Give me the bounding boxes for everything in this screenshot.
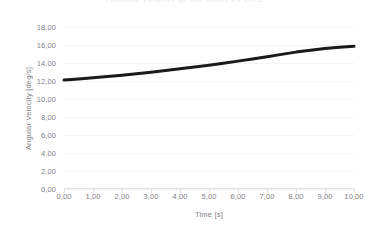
y-tick-label: 6,00	[41, 131, 56, 140]
y-tick-label: 2,00	[41, 167, 56, 176]
plot-area	[64, 27, 354, 189]
x-tick-label: 3,00	[144, 192, 159, 201]
y-tick-label: 18,00	[37, 23, 56, 32]
x-axis-tick-labels: 0,001,002,003,004,005,006,007,008,009,00…	[64, 192, 354, 206]
chart-title-clipped: Angular Velocity of the Shaft vs Time	[0, 0, 370, 2]
y-tick-label: 0,00	[41, 185, 56, 194]
y-tick-label: 10,00	[37, 95, 56, 104]
series-line-angular-velocity	[64, 46, 354, 80]
angular-velocity-chart: Angular Velocity of the Shaft vs Time 0,…	[0, 0, 370, 251]
x-tick-label: 9,00	[318, 192, 333, 201]
x-tick-label: 4,00	[173, 192, 188, 201]
series-line-layer	[64, 27, 354, 189]
x-tick-label: 8,00	[289, 192, 304, 201]
y-tick-label: 8,00	[41, 113, 56, 122]
x-tick-label: 0,00	[57, 192, 72, 201]
x-tick-label: 5,00	[202, 192, 217, 201]
y-axis-title-text: Angular Velocity [deg/s]	[25, 66, 34, 149]
x-tick-label: 10,00	[344, 192, 363, 201]
y-tick-label: 14,00	[37, 59, 56, 68]
x-tick-label: 7,00	[260, 192, 275, 201]
x-tick-label: 2,00	[115, 192, 130, 201]
x-tick-label: 1,00	[86, 192, 101, 201]
x-axis-title: Time [s]	[64, 210, 354, 219]
x-tick-label: 6,00	[231, 192, 246, 201]
y-tick-label: 12,00	[37, 77, 56, 86]
y-tick-label: 16,00	[37, 41, 56, 50]
y-tick-label: 4,00	[41, 149, 56, 158]
y-axis-title: Angular Velocity [deg/s]	[22, 27, 36, 189]
